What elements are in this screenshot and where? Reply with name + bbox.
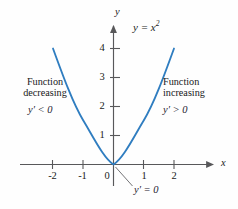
y-tick-label-1: 1	[96, 129, 108, 141]
annotation-function-increasing: Function increasing	[163, 76, 229, 99]
origin-leader-line	[116, 167, 133, 186]
x-axis-label: x	[221, 157, 226, 169]
x-tick-label-0: 0	[101, 170, 113, 182]
y-tick-label-4: 4	[96, 42, 108, 54]
x-tick-label-1: 1	[138, 170, 150, 182]
annotation-increasing-line2: increasing	[163, 87, 229, 98]
annotation-derivative-negative: y′ < 0	[28, 104, 53, 116]
annotation-decreasing-line2: decreasing	[14, 87, 76, 98]
annotation-increasing-line1: Function	[163, 76, 229, 87]
equation-label: y = x2	[133, 20, 159, 33]
y-axis-ticks	[110, 49, 120, 136]
y-tick-label-3: 3	[96, 71, 108, 83]
figure-parabola-increasing-decreasing: y x y = x2 4 3 2 1 -2 -1 0 1 2 Function …	[0, 0, 238, 209]
y-axis-label: y	[115, 6, 120, 18]
y-tick-label-2: 2	[96, 100, 108, 112]
equation-label-text: y = x2	[133, 21, 159, 33]
x-tick-label-minus-2: -2	[44, 170, 61, 182]
annotation-derivative-zero: y′ = 0	[134, 184, 159, 196]
annotation-function-decreasing: Function decreasing	[14, 76, 76, 99]
annotation-derivative-positive: y′ > 0	[163, 104, 188, 116]
x-tick-label-2: 2	[168, 170, 180, 182]
x-tick-label-minus-1: -1	[74, 170, 91, 182]
annotation-decreasing-line1: Function	[14, 76, 76, 87]
